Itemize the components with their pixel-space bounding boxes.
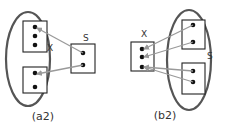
node-dot [140,55,145,60]
panel-caption: (b2) [154,109,177,122]
node-dot [33,85,38,90]
group-label: X [47,43,53,53]
node-dot [33,71,38,76]
single-box-label: S [83,33,89,43]
node-dot [33,34,38,39]
panel-b2: S X (b2) [131,10,213,122]
node-dot [33,43,38,48]
node-dot [33,25,38,30]
single-box-label: X [141,29,147,39]
diagram-canvas: X S (a2) S X (b2) [0,0,225,132]
group-label: S [207,51,213,61]
panel-caption: (a2) [32,110,54,123]
node-dot [140,65,145,70]
panel-a2: X S (a2) [6,12,95,123]
grouped-boxes [182,20,205,94]
grouped-box [182,63,205,94]
node-dot [140,47,145,52]
